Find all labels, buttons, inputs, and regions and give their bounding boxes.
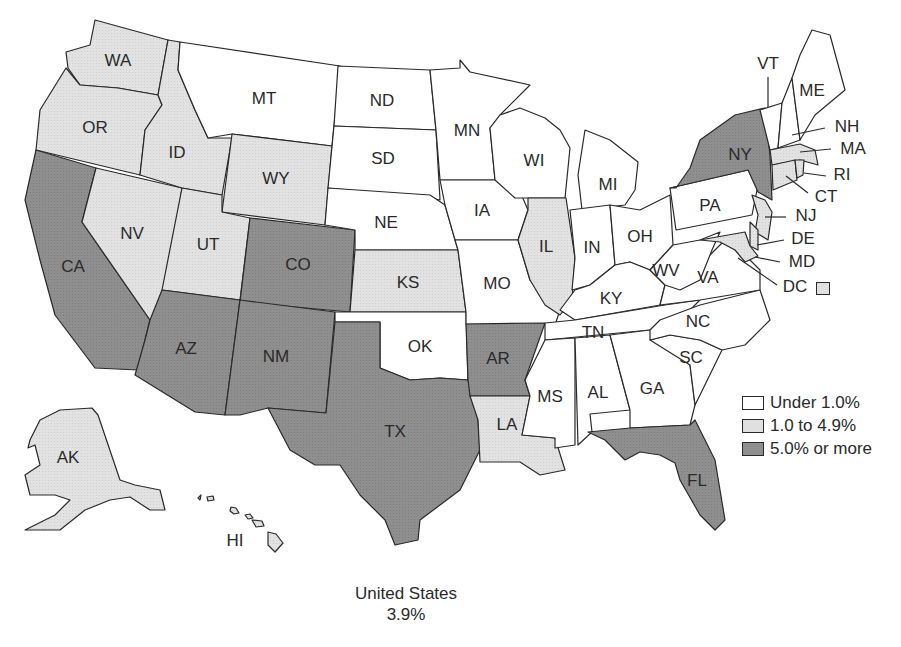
label-MT: MT — [252, 89, 277, 108]
legend-item-under-1: Under 1.0% — [742, 391, 872, 414]
legend: Under 1.0% 1.0 to 4.9% 5.0% or more — [742, 391, 872, 460]
label-UT: UT — [197, 235, 220, 254]
label-WY: WY — [262, 169, 289, 188]
label-NY: NY — [728, 145, 752, 164]
label-KY: KY — [600, 289, 623, 308]
label-NE: NE — [374, 213, 398, 232]
label-NV: NV — [120, 224, 144, 243]
label-MN: MN — [454, 121, 480, 140]
label-IL: IL — [539, 237, 553, 256]
label-OR: OR — [82, 118, 108, 137]
legend-label: Under 1.0% — [770, 393, 860, 413]
label-DC: DC — [783, 277, 808, 296]
label-PA: PA — [699, 196, 721, 215]
label-MO: MO — [483, 274, 510, 293]
state-AK — [25, 408, 165, 530]
legend-item-1-to-4-9: 1.0 to 4.9% — [742, 414, 872, 437]
label-ND: ND — [370, 91, 395, 110]
legend-swatch-light-gray — [742, 419, 764, 433]
label-NH: NH — [835, 117, 860, 136]
label-NJ: NJ — [796, 206, 817, 225]
label-MD: MD — [789, 252, 815, 271]
label-IA: IA — [474, 201, 491, 220]
legend-item-5-or-more: 5.0% or more — [742, 437, 872, 460]
label-LA: LA — [497, 415, 518, 434]
dc-swatch — [816, 282, 830, 295]
label-SC: SC — [679, 348, 703, 367]
label-NM: NM — [263, 347, 289, 366]
label-MA: MA — [840, 139, 866, 158]
label-SD: SD — [371, 149, 395, 168]
label-WV: WV — [652, 261, 680, 280]
label-TX: TX — [384, 422, 406, 441]
label-MI: MI — [599, 175, 618, 194]
label-RI: RI — [834, 165, 851, 184]
legend-swatch-white — [742, 396, 764, 410]
label-NC: NC — [686, 312, 711, 331]
label-AZ: AZ — [175, 339, 197, 358]
label-WA: WA — [105, 51, 132, 70]
label-HI: HI — [227, 531, 244, 550]
label-GA: GA — [640, 379, 665, 398]
label-OH: OH — [627, 227, 653, 246]
label-IN: IN — [584, 238, 601, 257]
label-ID: ID — [169, 143, 186, 162]
national-label: United States — [0, 583, 812, 604]
state-MI — [578, 130, 638, 210]
state-RI — [795, 160, 804, 178]
label-DE: DE — [791, 229, 815, 248]
national-summary: United States 3.9% — [0, 583, 812, 625]
label-AR: AR — [486, 349, 510, 368]
label-VT: VT — [757, 54, 779, 73]
label-ME: ME — [799, 81, 825, 100]
state-CT — [772, 160, 797, 190]
us-choropleth-map: WA OR CA NV ID MT WY UT CO AZ NM ND SD N… — [0, 0, 901, 647]
label-VA: VA — [697, 268, 719, 287]
label-MS: MS — [537, 387, 563, 406]
label-AK: AK — [57, 448, 80, 467]
label-CO: CO — [285, 255, 311, 274]
label-FL: FL — [687, 471, 707, 490]
label-OK: OK — [408, 337, 433, 356]
label-CT: CT — [815, 187, 838, 206]
label-TN: TN — [582, 323, 605, 342]
legend-swatch-dark-gray — [742, 442, 764, 456]
national-value: 3.9% — [0, 604, 812, 625]
legend-label: 1.0 to 4.9% — [770, 416, 856, 436]
label-KS: KS — [397, 273, 420, 292]
label-AL: AL — [588, 383, 609, 402]
legend-label: 5.0% or more — [770, 439, 872, 459]
label-CA: CA — [61, 257, 85, 276]
label-WI: WI — [524, 151, 545, 170]
